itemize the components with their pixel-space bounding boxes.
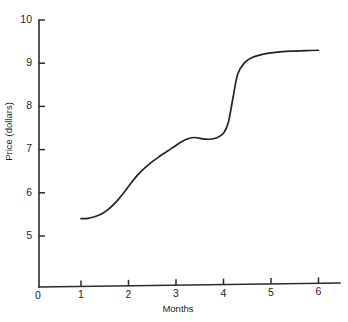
- tick-labels-group: 56789101234560: [20, 13, 321, 301]
- x-axis-title: Months: [162, 303, 193, 314]
- y-axis-tick-label: 10: [20, 13, 32, 25]
- x-axis-tick-label: 6: [316, 285, 322, 297]
- x-axis-tick-label: 1: [78, 288, 84, 300]
- y-axis-title: Price (dollars): [3, 102, 14, 161]
- axes-group: [39, 20, 340, 287]
- x-axis-tick-label: 5: [268, 286, 274, 298]
- y-axis-tick-label: 9: [26, 56, 32, 68]
- price-vs-months-chart: 56789101234560 MonthsPrice (dollars): [0, 0, 348, 322]
- y-axis-tick-label: 8: [26, 99, 32, 111]
- axis-titles-group: MonthsPrice (dollars): [3, 102, 194, 314]
- origin-label: 0: [35, 289, 41, 301]
- y-axis-tick-label: 7: [26, 142, 32, 154]
- ticks-group: [39, 20, 319, 286]
- x-axis-line: [39, 283, 340, 287]
- x-axis-tick-label: 4: [221, 287, 227, 299]
- y-axis-tick-label: 5: [26, 229, 32, 241]
- x-axis-tick-label: 3: [173, 287, 179, 299]
- chart-canvas: 56789101234560 MonthsPrice (dollars): [0, 0, 348, 322]
- price-curve: [81, 50, 319, 218]
- y-axis-tick-label: 6: [26, 186, 32, 198]
- x-axis-tick-label: 2: [126, 288, 132, 300]
- data-series-group: [81, 50, 319, 218]
